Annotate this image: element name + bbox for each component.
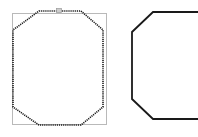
left-octagon bbox=[13, 11, 103, 125]
top-edge-marker-icon bbox=[57, 9, 62, 13]
diagram-canvas bbox=[0, 0, 198, 137]
octagons-svg bbox=[0, 0, 198, 137]
right-octagon bbox=[132, 12, 198, 119]
bounding-box-rectangle bbox=[13, 14, 107, 125]
